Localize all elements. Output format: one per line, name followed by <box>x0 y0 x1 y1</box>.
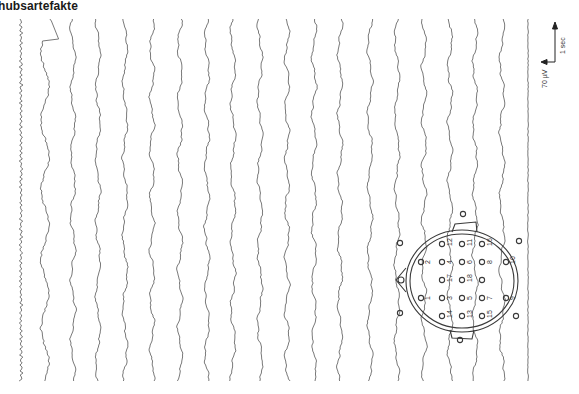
eeg-channel-trace <box>19 19 23 381</box>
electrode-icon <box>439 313 444 318</box>
svg-text:12: 12 <box>446 238 453 246</box>
amplitude-scale-label: 70 µV <box>541 70 548 88</box>
svg-text:2: 2 <box>424 260 431 264</box>
svg-text:1: 1 <box>424 296 431 300</box>
electrode-icon <box>479 259 484 264</box>
electrode-icon <box>439 241 444 246</box>
electrode-icon <box>479 277 484 282</box>
svg-text:15: 15 <box>486 310 493 318</box>
electrode-icon <box>479 313 484 318</box>
eeg-channel-trace <box>95 19 102 381</box>
svg-text:17: 17 <box>446 274 453 282</box>
electrode-icon <box>459 277 464 282</box>
svg-text:9: 9 <box>509 296 516 300</box>
electrode-icon <box>503 259 508 264</box>
electrode-icon <box>479 295 484 300</box>
eeg-channel-trace <box>257 19 263 381</box>
electrode-icon <box>459 241 464 246</box>
eeg-channel-trace <box>311 19 317 381</box>
svg-text:18: 18 <box>466 274 473 282</box>
eeg-channel-trace <box>394 19 401 381</box>
eeg-channel-trace <box>122 19 129 381</box>
time-scale-label: 1 sec <box>559 37 566 54</box>
electrode-icon <box>439 295 444 300</box>
eeg-channel-trace <box>499 19 506 381</box>
electrode-icon <box>459 259 464 264</box>
eeg-channel-trace <box>367 19 374 381</box>
electrode-icon <box>459 295 464 300</box>
svg-text:13: 13 <box>466 310 473 318</box>
eeg-channel-trace <box>337 19 344 381</box>
ecg-trace <box>528 19 529 381</box>
scale-bar <box>541 22 558 65</box>
electrode-icon <box>439 259 444 264</box>
svg-text:11: 11 <box>466 239 473 246</box>
eeg-channel-trace <box>421 19 428 381</box>
eeg-channel-trace <box>70 19 77 381</box>
svg-text:5: 5 <box>466 296 473 300</box>
svg-text:14: 14 <box>446 310 453 318</box>
eeg-channel-trace <box>284 19 291 381</box>
eeg-channel-trace <box>177 19 184 381</box>
eeg-channel-trace <box>230 19 237 381</box>
eeg-channel-trace <box>204 19 211 381</box>
svg-text:8: 8 <box>486 260 493 264</box>
electrode-icon <box>459 313 464 318</box>
svg-text:10: 10 <box>509 256 516 264</box>
svg-text:4: 4 <box>446 260 453 264</box>
electrode-icon <box>439 277 444 282</box>
svg-text:6: 6 <box>466 260 473 264</box>
eeg-channel-trace <box>149 19 156 381</box>
electrode-icon <box>418 295 423 300</box>
electrode-icon <box>479 241 484 246</box>
svg-text:16: 16 <box>486 238 493 246</box>
eeg-traces: 121116468171835714131521109 <box>0 0 579 394</box>
svg-text:7: 7 <box>486 296 493 300</box>
electrode-icon <box>418 259 423 264</box>
eeg-channel-trace <box>40 19 59 381</box>
svg-text:3: 3 <box>446 296 453 300</box>
